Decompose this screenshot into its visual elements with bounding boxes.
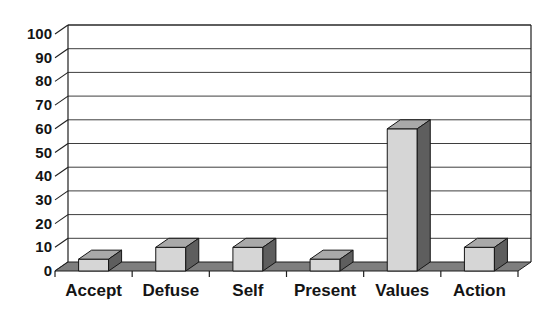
y-tick-60 (55, 120, 68, 129)
y-tick-80 (55, 72, 68, 81)
y-tick-100 (55, 25, 68, 34)
y-tick-label-80: 80 (35, 72, 52, 89)
x-axis-label-values: Values (375, 281, 429, 300)
y-tick-label-100: 100 (27, 25, 52, 42)
bar-side-values (417, 120, 430, 271)
bar-front-values (387, 129, 417, 271)
x-axis-label-accept: Accept (65, 281, 122, 300)
y-tick-label-60: 60 (35, 120, 52, 137)
bar-front-accept (79, 259, 109, 271)
y-tick-40 (55, 167, 68, 176)
y-tick-90 (55, 49, 68, 58)
bar-chart-figure: 0102030405060708090100AcceptDefuseSelfPr… (0, 0, 559, 317)
y-tick-label-70: 70 (35, 96, 52, 113)
y-tick-label-0: 0 (44, 262, 52, 279)
x-axis-label-self: Self (232, 281, 264, 300)
y-tick-label-20: 20 (35, 215, 52, 232)
y-tick-10 (55, 238, 68, 247)
y-tick-label-50: 50 (35, 144, 52, 161)
y-tick-70 (55, 96, 68, 105)
x-axis-label-present: Present (294, 281, 357, 300)
x-axis-label-defuse: Defuse (142, 281, 199, 300)
y-tick-20 (55, 215, 68, 224)
x-axis-label-action: Action (453, 281, 506, 300)
bar-front-action (464, 247, 494, 271)
y-tick-30 (55, 191, 68, 200)
y-tick-label-10: 10 (35, 238, 52, 255)
chart-floor (55, 262, 531, 271)
y-tick-label-90: 90 (35, 49, 52, 66)
chart-canvas: 0102030405060708090100AcceptDefuseSelfPr… (0, 0, 559, 317)
y-tick-label-40: 40 (35, 167, 52, 184)
bar-front-self (233, 247, 263, 271)
y-tick-label-30: 30 (35, 191, 52, 208)
bar-front-present (310, 259, 340, 271)
bar-front-defuse (156, 247, 186, 271)
y-tick-50 (55, 144, 68, 153)
